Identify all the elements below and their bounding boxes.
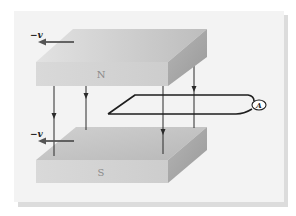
ammeter-label: A bbox=[255, 101, 262, 110]
bottom-velocity-label: −v bbox=[30, 129, 44, 139]
ammeter: A bbox=[252, 100, 266, 110]
north-pole-label: N bbox=[97, 69, 106, 80]
top-velocity-label: −v bbox=[30, 30, 44, 40]
south-pole-label: S bbox=[98, 167, 105, 178]
magnet-loop-diagram: S A N −v −v bbox=[0, 0, 296, 216]
